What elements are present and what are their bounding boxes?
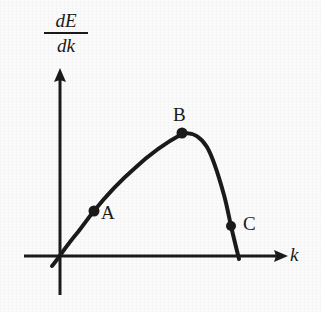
y-axis-label: dE dk [44, 10, 88, 56]
physics-plot-figure: dE dk k A B C [0, 0, 321, 312]
marker-point-b [177, 128, 188, 139]
point-label-a: A [101, 202, 115, 224]
marker-point-c [226, 221, 236, 231]
y-axis-label-denominator: dk [44, 34, 88, 56]
x-axis-arrowhead-icon [274, 250, 288, 262]
y-axis-arrowhead-icon [54, 68, 66, 82]
y-axis-label-numerator: dE [44, 10, 88, 34]
dedk-curve [52, 133, 239, 266]
point-label-c: C [243, 213, 256, 235]
point-label-b: B [173, 104, 186, 126]
marker-point-a [89, 206, 100, 217]
x-axis-label: k [290, 244, 298, 266]
